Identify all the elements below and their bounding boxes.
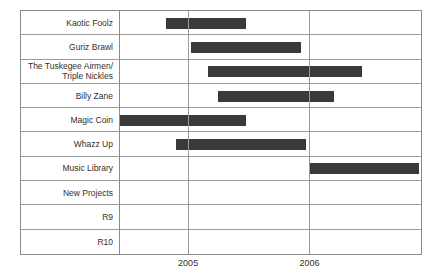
tick-label-2006: 2006 (299, 258, 319, 268)
x-axis-tick-labels: 20052006 (0, 0, 433, 279)
tick-label-2005: 2005 (178, 258, 198, 268)
gantt-chart: Kaotic FoolzGuriz BrawlThe Tuskegee Airm… (0, 0, 433, 279)
